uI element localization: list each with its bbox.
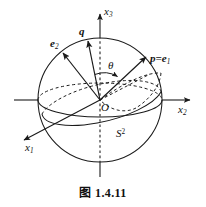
vector-p-e1-arrow [100, 57, 146, 100]
vector-q-arrow [88, 41, 100, 100]
axis-x1-segment-back-dashed [100, 74, 150, 100]
figure-caption: 图 1.4.11 [0, 183, 206, 201]
axis-x1-label: x1 [25, 142, 34, 155]
axis-x1-line [24, 100, 100, 140]
meridian-arc-right-dashed [100, 73, 161, 100]
axis-x2-label: x2 [178, 104, 187, 117]
vector-p-e1-label: p=e1 [150, 53, 170, 66]
angle-theta-label: θ [108, 60, 113, 71]
sphere-label: S2 [116, 128, 125, 139]
vector-e2-label: e2 [50, 38, 59, 51]
figure-container: x3 x2 x1 q e2 p=e1 O θ S2 图 1.4.11 [0, 0, 206, 207]
theta-arc [95, 73, 118, 77]
meridian-arc-right-lower-dashed [136, 73, 161, 108]
vector-e2-arrow [63, 53, 100, 100]
axis-x3-label: x3 [104, 6, 113, 19]
origin-label: O [101, 102, 109, 113]
vector-q-label: q [79, 26, 85, 37]
